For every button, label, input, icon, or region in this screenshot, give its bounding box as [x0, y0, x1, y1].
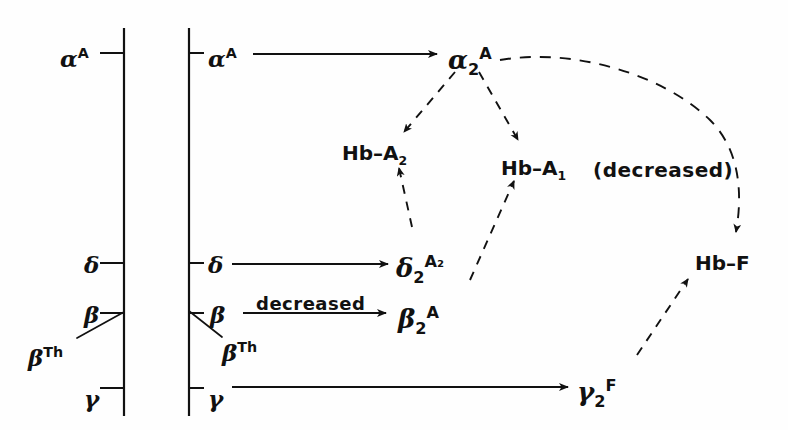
glyph-subscript: 2 [594, 392, 605, 411]
glyph-base: δ [84, 251, 99, 278]
hemoglobin-pathway-diagram: αAδββThγαAδββThγα2Aδ2A₂β2Aγ2FHb–A2Hb–A1H… [0, 0, 788, 430]
glyph-base: γ [577, 377, 594, 407]
left-locus-delta: δ [84, 253, 99, 277]
chain-node-delta2-A2: δ2A₂ [396, 254, 444, 286]
product-name: Hb–A [501, 156, 558, 180]
glyph-base: δ [396, 253, 413, 283]
glyph-subscript: 2 [413, 268, 424, 287]
left-locus-beta: β [84, 303, 99, 327]
right-locus-beta: β [210, 303, 225, 327]
delta2-to-hbA2 [399, 168, 412, 227]
glyph-base: β [210, 301, 225, 328]
alpha2-to-hbA2 [404, 72, 455, 132]
glyph-base: γ [84, 385, 99, 412]
glyph-superscript: A [226, 45, 237, 61]
assembly-dashed-arrows [399, 72, 688, 355]
glyph-base: β [398, 304, 415, 334]
glyph-superscript: A [479, 44, 491, 63]
right-locus-delta: δ [208, 253, 223, 277]
alpha2-to-hbF [500, 57, 739, 232]
product-name: Hb–A [342, 141, 399, 165]
product-node-hb-A2: Hb–A2 [342, 143, 407, 167]
product-name: Hb–F [695, 251, 750, 275]
product-subscript: 2 [399, 153, 408, 168]
glyph-base: α [60, 45, 78, 72]
glyph-superscript: Th [237, 339, 257, 355]
glyph-base: γ [208, 385, 223, 412]
glyph-superscript: A₂ [425, 252, 445, 271]
glyph-superscript: A [78, 45, 89, 61]
glyph-superscript: Th [43, 344, 63, 360]
diagram-lines-layer [0, 0, 788, 430]
right-locus-gamma: γ [208, 387, 223, 411]
alpha2-to-hbA1 [479, 72, 518, 140]
product-node-hb-A1: Hb–A1 [501, 158, 566, 182]
glyph-superscript: A [426, 303, 438, 322]
chain-node-gamma2-F: γ2F [577, 378, 616, 410]
glyph-subscript: 2 [468, 60, 479, 79]
synthesis-solid-arrows [232, 54, 568, 387]
alpha2-to-hbf-curved-arrow [500, 57, 739, 232]
chain-node-alpha2-A: α2A [448, 46, 492, 78]
glyph-base: α [208, 45, 226, 72]
product-node-hb-F: Hb–F [695, 253, 750, 273]
left-locus-beta-Th: βTh [28, 345, 63, 370]
annotation-beta-transcription-rate: decreased [256, 293, 365, 314]
left-locus-alpha-A: αA [60, 46, 89, 71]
glyph-base: β [222, 339, 237, 366]
left-locus-gamma: γ [84, 387, 99, 411]
right-locus-alpha-A: αA [208, 46, 237, 71]
gamma2-to-hbF [637, 279, 688, 355]
glyph-subscript: 2 [415, 319, 426, 338]
annotation-hb-A1-status: (decreased) [593, 158, 733, 182]
beta2-to-hbA1 [470, 181, 514, 280]
glyph-base: β [84, 301, 99, 328]
right-locus-beta-Th: βTh [222, 340, 257, 365]
glyph-base: α [448, 45, 468, 75]
glyph-base: β [28, 344, 43, 371]
chromosome-bars [124, 28, 189, 416]
chain-node-beta2-A: β2A [398, 305, 439, 337]
glyph-superscript: F [605, 376, 616, 395]
glyph-base: δ [208, 251, 223, 278]
product-subscript: 1 [558, 168, 567, 183]
